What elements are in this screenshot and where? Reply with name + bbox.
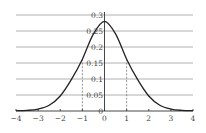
y-axis-tick-labels: 00.050.10.150.20.250.3 [86, 11, 103, 116]
x-tick-label: 3 [168, 114, 173, 123]
x-tick-label: −3 [33, 114, 44, 123]
x-tick-label: 1 [124, 114, 129, 123]
y-tick-label: 0.05 [86, 91, 103, 100]
x-tick-label: −4 [10, 114, 21, 123]
y-tick-label: 0.3 [91, 11, 103, 20]
x-tick-label: 4 [191, 114, 196, 123]
x-axis-tick-labels: −4−3−2−101234 [10, 114, 195, 123]
x-tick-label: 2 [146, 114, 151, 123]
y-tick-label: 0.1 [91, 75, 103, 84]
bell-curve-chart: 00.050.10.150.20.250.3 −4−3−2−101234 [0, 0, 206, 133]
x-tick-label: 0 [102, 114, 107, 123]
x-tick-label: −2 [55, 114, 66, 123]
y-tick-label: 0.2 [91, 43, 103, 52]
y-tick-label: 0.15 [86, 59, 103, 68]
x-tick-label: −1 [77, 114, 88, 123]
